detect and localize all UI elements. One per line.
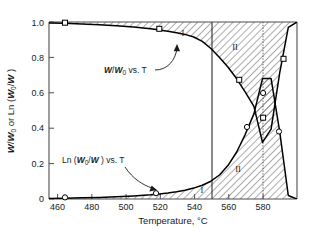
- annotation-upper-arrowhead: [174, 44, 180, 51]
- marker-square: [63, 20, 68, 25]
- y-axis-title: W/W0 or Ln (W0/W ): [5, 69, 17, 153]
- x-axis-title: Temperature, °C: [138, 215, 207, 226]
- x-tick-label-520: 520: [153, 202, 168, 212]
- marker-square: [237, 77, 242, 82]
- y-tick-label-0.6: 0.6: [31, 88, 44, 98]
- marker-square: [281, 56, 286, 61]
- marker-circle: [153, 191, 158, 196]
- x-tick-label-460: 460: [50, 202, 65, 212]
- x-tick-label-480: 480: [84, 202, 99, 212]
- region-label-I-upper: I: [182, 28, 185, 38]
- marker-circle: [276, 129, 281, 134]
- marker-circle: [261, 90, 266, 95]
- region-label-II-lower: II: [235, 164, 241, 174]
- lower-hatched-band: [49, 79, 297, 199]
- x-tick-label-540: 540: [187, 202, 202, 212]
- svg-text:W/W0 or Ln (W0/W ): W/W0 or Ln (W0/W ): [5, 69, 17, 153]
- y-tick-label-0.2: 0.2: [31, 159, 44, 169]
- chart-canvas: 0 0.2 0.4 0.6 0.8 1.0 460 480 500 520 54…: [0, 0, 310, 235]
- y-tick-label-0.4: 0.4: [31, 123, 44, 133]
- y-tick-label-0.8: 0.8: [31, 53, 44, 63]
- x-tick-labels: 460 480 500 520 540 560 580: [50, 202, 271, 212]
- annotation-lower-leader-line: [125, 167, 152, 188]
- y-tick-label-1.0: 1.0: [31, 18, 44, 28]
- marker-circle: [62, 195, 67, 200]
- annotation-upper-leader-line: [155, 49, 177, 70]
- y-axis-ticks: [49, 22, 54, 199]
- chart-figure: 0 0.2 0.4 0.6 0.8 1.0 460 480 500 520 54…: [0, 0, 310, 235]
- annotation-lower-series-label: Ln (W0/W ) vs. T: [62, 155, 125, 166]
- y-tick-labels: 0 0.2 0.4 0.6 0.8 1.0: [31, 18, 44, 205]
- marker-square: [157, 26, 162, 31]
- region-label-I-lower: I: [201, 185, 204, 195]
- marker-circle: [244, 124, 249, 129]
- y-tick-label-0: 0: [39, 194, 44, 204]
- x-tick-label-500: 500: [119, 202, 134, 212]
- x-tick-label-560: 560: [221, 202, 236, 212]
- x-tick-label-580: 580: [256, 202, 271, 212]
- marker-square: [261, 115, 266, 120]
- region-label-II-upper: II: [232, 42, 238, 52]
- hatched-areas: [49, 22, 297, 199]
- annotation-upper-series-label: W/W0 vs. T: [104, 65, 147, 76]
